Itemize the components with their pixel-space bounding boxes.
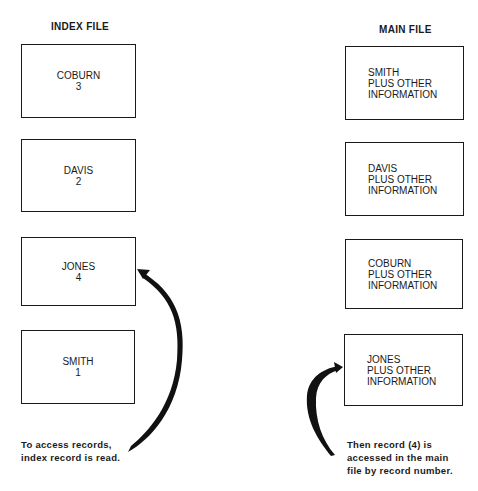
caption-line: Then record (4) is (347, 438, 453, 451)
caption-line: index record is read. (21, 451, 120, 464)
caption-line: file by record number. (347, 464, 453, 477)
caption-line: To access records, (21, 438, 120, 451)
curved-arrow-icon-right (307, 362, 343, 456)
main-caption: Then record (4) is accessed in the main … (347, 438, 453, 477)
index-caption: To access records, index record is read. (21, 438, 120, 464)
curved-arrow-icon-left (128, 269, 183, 452)
arrows (0, 0, 478, 491)
caption-line: accessed in the main (347, 451, 453, 464)
